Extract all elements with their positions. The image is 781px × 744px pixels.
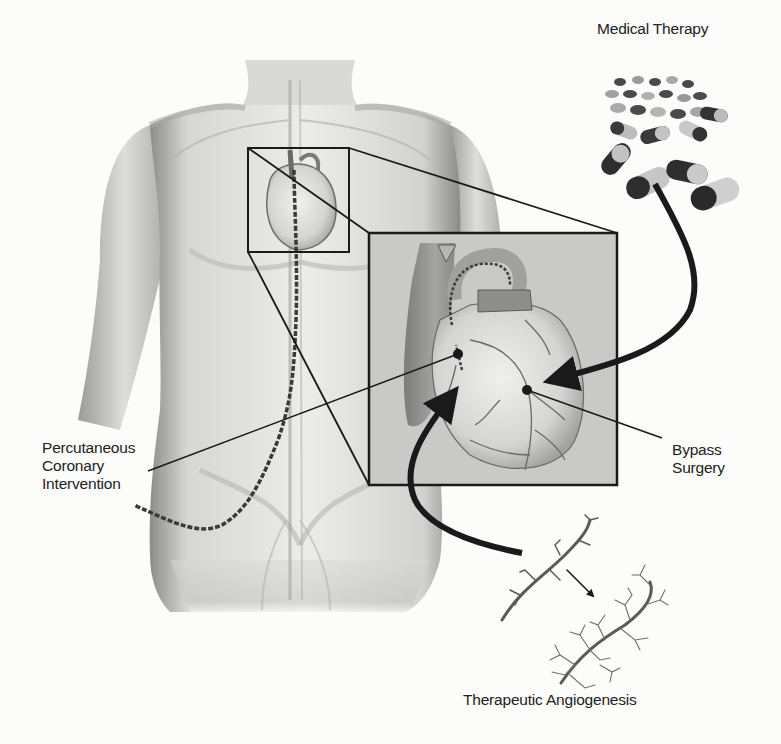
heart-inset [369,233,617,485]
medical-therapy-text: Medical Therapy [597,20,708,38]
pci-label: Percutaneous Coronary Intervention [42,439,135,493]
medical-therapy-label: Medical Therapy [597,20,708,38]
angiogenesis-text: Therapeutic Angiogenesis [463,691,637,709]
bypass-line-2: Surgery [672,459,725,477]
angiogenesis-label: Therapeutic Angiogenesis [463,691,637,709]
pci-line-3: Intervention [42,475,135,493]
pills-icon [598,76,743,214]
pci-line-2: Coronary [42,457,135,475]
bypass-surgery-label: Bypass Surgery [672,441,725,477]
bypass-line-1: Bypass [672,441,725,459]
pci-line-1: Percutaneous [42,439,135,457]
treatment-diagram [0,0,781,744]
vessel-branch-icon [502,515,668,688]
